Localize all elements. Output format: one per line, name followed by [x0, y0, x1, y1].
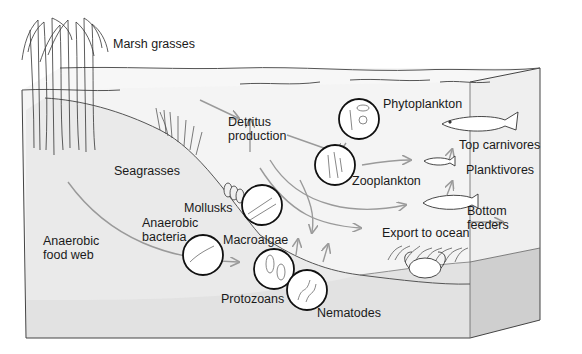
label-phytoplankton: Phytoplankton — [383, 97, 462, 111]
zooplankton-circle — [315, 145, 355, 185]
macroalgae-circle — [242, 185, 282, 225]
label-anaerobic-bacteria: Anaerobic bacteria — [142, 216, 202, 244]
label-zooplankton: Zooplankton — [352, 174, 421, 188]
label-mollusks: Mollusks — [184, 201, 233, 215]
label-planktivores: Planktivores — [466, 163, 534, 177]
label-nematodes: Nematodes — [317, 306, 381, 320]
label-top-carnivores: Top carnivores — [459, 138, 540, 152]
label-detritus-production: Detritus production — [228, 115, 300, 143]
label-anaerobic-food-web: Anaerobic food web — [43, 234, 105, 262]
label-bottom-feeders: Bottom feeders — [467, 204, 523, 232]
nematodes-circle — [287, 270, 327, 310]
phytoplankton-circle — [339, 99, 379, 139]
label-macroalgae: Macroalgae — [223, 233, 288, 247]
estuary-food-web-diagram — [0, 0, 582, 354]
label-export-to-ocean: Export to ocean — [382, 226, 470, 240]
label-protozoans: Protozoans — [221, 292, 284, 306]
label-seagrasses: Seagrasses — [114, 164, 180, 178]
label-marsh-grasses: Marsh grasses — [113, 37, 195, 51]
